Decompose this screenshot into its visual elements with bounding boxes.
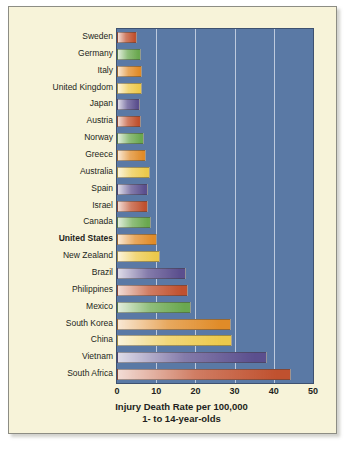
category-label-austria: Austria (21, 115, 113, 126)
x-axis-title-line2: 1- to 14-year-olds (17, 413, 346, 425)
category-label-united-states: United States (21, 233, 113, 244)
category-label-germany: Germany (21, 48, 113, 59)
bar-australia (117, 167, 150, 178)
bar-south-africa (117, 369, 291, 380)
x-axis: 01020304050 (116, 384, 314, 398)
x-tick-40: 40 (269, 386, 279, 396)
category-label-brazil: Brazil (21, 267, 113, 278)
category-label-canada: Canada (21, 216, 113, 227)
x-tick-0: 0 (114, 386, 119, 396)
category-label-south-korea: South Korea (21, 318, 113, 329)
category-label-united-kingdom: United Kingdom (21, 82, 113, 93)
category-label-australia: Australia (21, 166, 113, 177)
category-label-spain: Spain (21, 183, 113, 194)
chart-frame: SwedenGermanyItalyUnited KingdomJapanAus… (8, 6, 337, 434)
x-tick-10: 10 (151, 386, 161, 396)
gridline-30 (235, 29, 236, 383)
bar-mexico (117, 302, 191, 313)
category-label-vietnam: Vietnam (21, 351, 113, 362)
bar-united-kingdom (117, 83, 142, 94)
category-label-greece: Greece (21, 149, 113, 160)
category-label-philippines: Philippines (21, 284, 113, 295)
gridline-20 (195, 29, 196, 383)
x-axis-title: Injury Death Rate per 100,000 1- to 14-y… (17, 401, 346, 424)
bar-austria (117, 116, 141, 127)
bar-canada (117, 217, 151, 228)
gridline-10 (156, 29, 157, 383)
x-axis-title-line1: Injury Death Rate per 100,000 (17, 401, 346, 413)
x-tick-30: 30 (230, 386, 240, 396)
category-label-new-zealand: New Zealand (21, 250, 113, 261)
category-label-japan: Japan (21, 98, 113, 109)
category-label-israel: Israel (21, 200, 113, 211)
category-label-axis: SwedenGermanyItalyUnited KingdomJapanAus… (21, 28, 113, 384)
category-label-south-africa: South Africa (21, 368, 113, 379)
bar-united-states (117, 234, 157, 245)
bar-brazil (117, 268, 186, 279)
plot-area (116, 28, 314, 384)
category-label-italy: Italy (21, 65, 113, 76)
category-label-norway: Norway (21, 132, 113, 143)
bar-japan (117, 99, 140, 110)
bar-italy (117, 66, 142, 77)
bar-spain (117, 184, 148, 195)
bar-new-zealand (117, 251, 160, 262)
category-label-china: China (21, 334, 113, 345)
bar-germany (117, 49, 141, 60)
bar-vietnam (117, 352, 267, 363)
bar-sweden (117, 32, 137, 43)
chart-figure: SwedenGermanyItalyUnited KingdomJapanAus… (0, 0, 355, 450)
category-label-mexico: Mexico (21, 301, 113, 312)
bar-china (117, 335, 232, 346)
bar-norway (117, 133, 144, 144)
x-tick-50: 50 (308, 386, 318, 396)
gridline-40 (274, 29, 275, 383)
bar-greece (117, 150, 146, 161)
bar-philippines (117, 285, 188, 296)
x-tick-20: 20 (190, 386, 200, 396)
bar-israel (117, 201, 148, 212)
bar-south-korea (117, 319, 231, 330)
category-label-sweden: Sweden (21, 31, 113, 42)
